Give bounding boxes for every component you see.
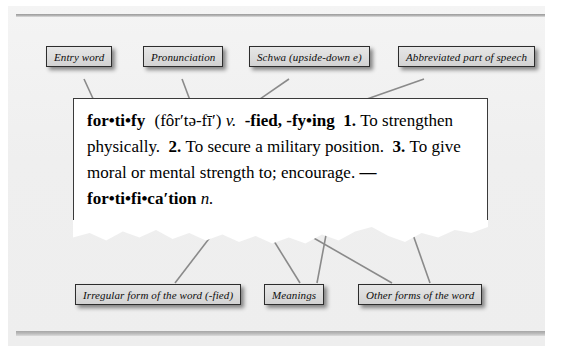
entry-sense-1-number: 1. bbox=[343, 111, 356, 130]
dictionary-entry-card: for•ti•fy (fôr′tə-fī′) v. -fied, -fy•ing… bbox=[73, 98, 488, 248]
label-part-of-speech-text: Abbreviated part of speech bbox=[406, 51, 527, 63]
figure-page: Entry word Pronunciation Schwa (upside-d… bbox=[0, 0, 585, 352]
label-pronunciation-text: Pronunciation bbox=[151, 51, 215, 63]
label-irregular-form-text: Irregular form of the word (-fied) bbox=[83, 289, 233, 301]
bottom-divider-rule bbox=[16, 331, 545, 336]
label-entry-word-text: Entry word bbox=[54, 51, 104, 63]
entry-sense-3-number: 3. bbox=[393, 137, 406, 156]
label-other-forms-text: Other forms of the word bbox=[366, 289, 474, 301]
entry-derived-part-of-speech: n. bbox=[201, 189, 214, 208]
label-entry-word: Entry word bbox=[46, 46, 112, 67]
entry-sense-2-text: To secure a military position. bbox=[186, 137, 385, 156]
label-meanings: Meanings bbox=[264, 284, 324, 305]
entry-derived-word: for•ti•fi•ca′tion bbox=[87, 189, 197, 208]
entry-pronunciation: (fôr′tə-fī′) bbox=[154, 111, 221, 130]
entry-inflections: -fied, -fy•ing bbox=[245, 111, 335, 130]
top-divider-rule bbox=[16, 14, 545, 17]
entry-text-block: for•ti•fy (fôr′tə-fī′) v. -fied, -fy•ing… bbox=[87, 108, 479, 212]
entry-derived-dash: — bbox=[359, 163, 376, 182]
label-part-of-speech: Abbreviated part of speech bbox=[398, 46, 535, 67]
label-schwa: Schwa (upside-down e) bbox=[249, 46, 370, 67]
entry-part-of-speech: v. bbox=[226, 111, 237, 130]
label-pronunciation: Pronunciation bbox=[143, 46, 223, 67]
label-schwa-text: Schwa (upside-down e) bbox=[257, 51, 362, 63]
entry-headword: for•ti•fy bbox=[87, 111, 145, 130]
entry-sense-2-number: 2. bbox=[169, 137, 182, 156]
label-irregular-form: Irregular form of the word (-fied) bbox=[75, 284, 241, 305]
label-other-forms: Other forms of the word bbox=[358, 284, 482, 305]
label-meanings-text: Meanings bbox=[272, 289, 316, 301]
